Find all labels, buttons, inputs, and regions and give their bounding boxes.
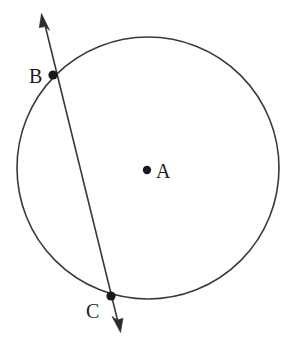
label-a: A [156,160,171,182]
point-b-marker [48,70,57,79]
geometry-canvas: B C A [0,0,293,341]
label-b: B [29,65,42,87]
label-c: C [86,300,99,322]
point-a-marker [143,166,151,174]
geometry-diagram: B C A [0,0,293,341]
point-c-marker [106,291,115,300]
